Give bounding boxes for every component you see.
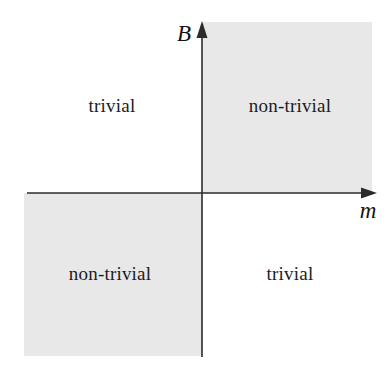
quadrant-label-top-right: non-trivial <box>249 95 331 117</box>
diagram-canvas <box>0 0 392 369</box>
y-axis-label: B <box>177 21 191 47</box>
quadrant-label-top-left: trivial <box>89 95 136 117</box>
phase-diagram-figure: B m trivial non-trivial non-trivial triv… <box>0 0 392 369</box>
quadrant-label-bottom-left: non-trivial <box>69 263 151 285</box>
quadrant-label-bottom-right: trivial <box>267 263 314 285</box>
x-axis-label: m <box>360 198 377 224</box>
